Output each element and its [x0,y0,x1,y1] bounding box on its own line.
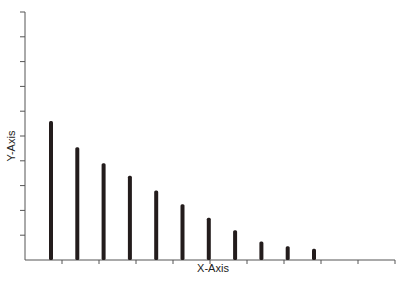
bar [102,163,106,260]
bar [312,249,316,260]
bar [286,246,290,260]
bar [181,204,185,260]
y-axis-label: Y-Axis [5,130,17,161]
y-axis [20,12,25,260]
bar [207,218,211,260]
bar-chart: X-Axis Y-Axis [0,0,404,281]
bar [259,241,263,260]
bars [49,121,316,260]
bar [128,176,132,260]
bar [49,121,53,260]
bar [75,147,79,260]
bar [154,191,158,260]
x-axis-label: X-Axis [197,262,229,274]
bar [233,230,237,260]
